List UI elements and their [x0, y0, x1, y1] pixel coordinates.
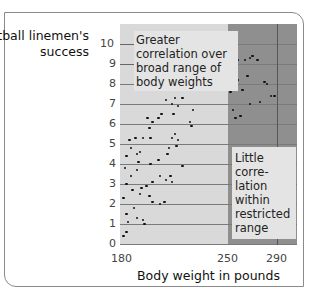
- data-point: [157, 159, 160, 162]
- data-point: [139, 151, 142, 154]
- data-point: [145, 185, 148, 188]
- y-tick-label: 8: [100, 77, 116, 90]
- y-tick-label: 7: [100, 97, 116, 110]
- data-point: [133, 207, 136, 210]
- data-point: [165, 99, 168, 102]
- y-tick-label: 1: [100, 217, 116, 230]
- data-point: [131, 189, 134, 192]
- annotation-restricted-range: Little corre-lation within restricted ra…: [232, 147, 296, 239]
- data-point: [160, 113, 163, 116]
- data-point: [136, 153, 139, 156]
- data-point: [166, 153, 169, 156]
- data-point: [130, 147, 133, 150]
- data-point: [125, 155, 128, 158]
- data-point: [157, 117, 160, 120]
- data-point: [234, 117, 237, 120]
- data-point: [171, 137, 174, 140]
- data-point: [148, 195, 151, 198]
- data-point: [125, 231, 128, 234]
- gridline: [120, 124, 297, 125]
- data-point: [168, 147, 171, 150]
- data-point: [142, 219, 145, 222]
- data-point: [130, 175, 133, 178]
- data-point: [159, 175, 162, 178]
- data-point: [127, 221, 130, 224]
- data-point: [136, 169, 139, 172]
- y-tick-dash: [120, 64, 134, 65]
- data-point: [174, 133, 177, 136]
- data-point: [148, 127, 151, 130]
- data-point: [134, 137, 137, 140]
- data-point: [174, 97, 177, 100]
- data-point: [192, 109, 195, 112]
- y-tick-label: 2: [100, 197, 116, 210]
- data-point: [169, 175, 172, 178]
- y-tick-label: 3: [100, 177, 116, 190]
- gridline: [120, 244, 297, 245]
- x-tick-label: 290: [266, 252, 287, 265]
- data-point: [181, 165, 184, 168]
- data-point: [165, 179, 168, 182]
- data-point: [149, 137, 152, 140]
- annotation-broad-range: Greater correlation over broad range of …: [134, 31, 238, 91]
- data-point: [151, 181, 154, 184]
- y-tick-label: 4: [100, 157, 116, 170]
- y-tick-label: 0: [100, 237, 116, 250]
- y-tick-label: 9: [100, 57, 116, 70]
- data-point: [273, 95, 276, 98]
- data-point: [171, 181, 174, 184]
- x-tick-label: 250: [217, 252, 238, 265]
- data-point: [142, 137, 145, 140]
- data-point: [190, 125, 193, 128]
- y-tick-label: 5: [100, 137, 116, 150]
- data-point: [139, 193, 142, 196]
- data-point: [124, 167, 127, 170]
- gridline: [120, 144, 297, 145]
- y-axis-label: Football linemen's success: [0, 28, 89, 60]
- data-point: [151, 121, 154, 124]
- data-point: [128, 139, 131, 142]
- x-axis-label: Body weight in pounds: [120, 268, 297, 283]
- data-point: [189, 121, 192, 124]
- data-point: [172, 113, 175, 116]
- data-point: [175, 145, 178, 148]
- data-point: [177, 139, 180, 142]
- data-point: [151, 201, 154, 204]
- data-point: [181, 97, 184, 100]
- data-point: [239, 115, 242, 118]
- y-tick-label: 6: [100, 117, 116, 130]
- y-tick-label: 10: [96, 37, 114, 50]
- data-point: [146, 117, 149, 120]
- y-tick-dash: [120, 44, 134, 45]
- data-point: [163, 201, 166, 204]
- data-point: [137, 161, 140, 164]
- data-point: [177, 105, 180, 108]
- gridline: [120, 104, 297, 105]
- data-point: [122, 197, 125, 200]
- x-tick-label: 180: [111, 252, 132, 265]
- data-point: [136, 217, 139, 220]
- data-point: [125, 213, 128, 216]
- data-point: [122, 235, 125, 238]
- data-point: [140, 187, 143, 190]
